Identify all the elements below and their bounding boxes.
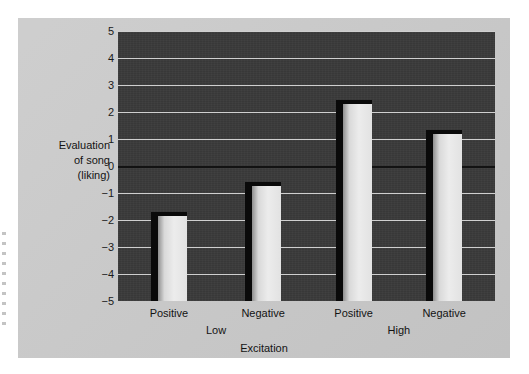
edge-mark	[2, 292, 6, 295]
figure-panel: 543210−1−2−3−4−5 Evaluation of song (lik…	[18, 18, 510, 358]
y-axis-title-line-2: of song	[24, 153, 110, 168]
page-edge-marks	[2, 232, 7, 336]
gridline	[118, 85, 495, 86]
y-tick-label: 2	[84, 107, 114, 118]
gridline	[118, 58, 495, 59]
y-tick-label: −3	[84, 242, 114, 253]
y-axis-title: Evaluation of song (liking)	[24, 138, 110, 183]
y-axis-title-line-1: Evaluation	[24, 138, 110, 153]
x-tick-label: Positive	[314, 307, 394, 319]
gridline	[118, 31, 495, 32]
edge-mark	[2, 252, 6, 255]
bar-high-negative	[426, 130, 462, 301]
edge-mark	[2, 312, 6, 315]
edge-mark	[2, 322, 6, 325]
gridline	[118, 112, 495, 113]
edge-mark	[2, 282, 6, 285]
y-tick-label: 4	[84, 53, 114, 64]
edge-mark	[2, 262, 6, 265]
edge-mark	[2, 242, 6, 245]
x-tick-label: Negative	[223, 307, 303, 319]
bar-face	[343, 104, 372, 301]
y-axis-title-line-3: (liking)	[24, 168, 110, 183]
bar-low-negative	[245, 182, 281, 301]
y-tick-label: 3	[84, 80, 114, 91]
y-tick-label: −2	[84, 215, 114, 226]
x-axis-title: Excitation	[18, 342, 510, 354]
y-tick-label: −5	[84, 296, 114, 307]
y-tick-label: −4	[84, 269, 114, 280]
edge-mark	[2, 232, 6, 235]
plot-area	[118, 31, 495, 301]
x-tick-label: Negative	[404, 307, 484, 319]
bar-face	[158, 216, 187, 301]
bar-high-positive	[336, 100, 372, 301]
x-tick-label: Positive	[129, 307, 209, 319]
y-tick-label: −1	[84, 188, 114, 199]
y-tick-label: 5	[84, 26, 114, 37]
edge-mark	[2, 272, 6, 275]
x-group-label-low: Low	[176, 324, 256, 336]
bar-face	[433, 134, 462, 301]
x-group-label-high: High	[359, 324, 439, 336]
edge-mark	[2, 302, 6, 305]
bar-low-positive	[151, 212, 187, 301]
bar-face	[252, 186, 281, 301]
